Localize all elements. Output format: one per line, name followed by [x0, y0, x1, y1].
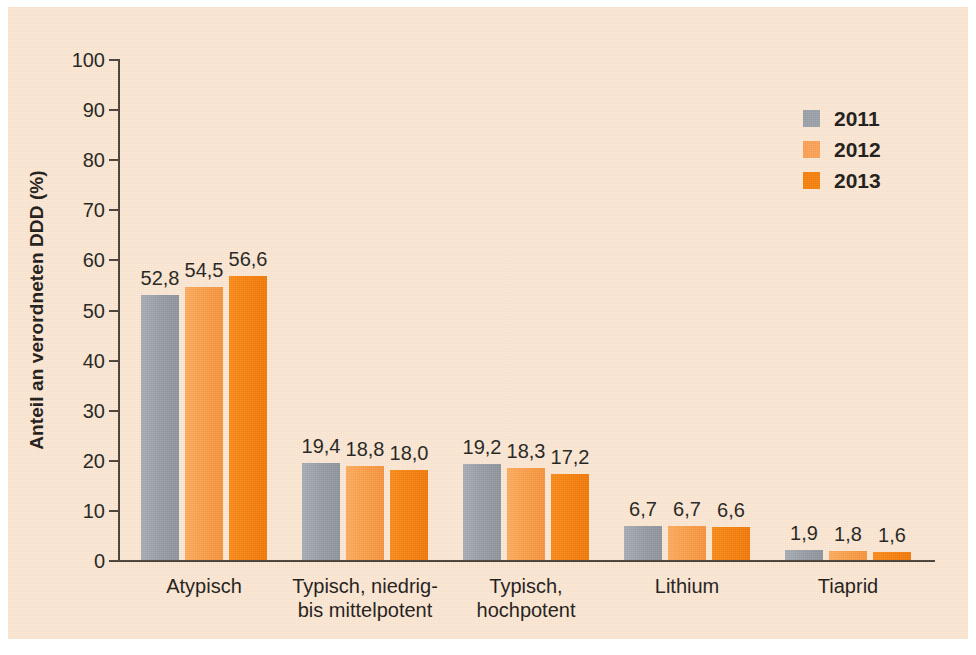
bar-2012-1[interactable] [185, 287, 223, 560]
bar-2011-2[interactable] [302, 463, 340, 560]
legend-item-2013[interactable]: 2013 [803, 165, 881, 196]
y-axis-tick-label: 90 [83, 99, 105, 122]
bar-2012-4[interactable] [668, 526, 706, 560]
y-axis-tick-label: 20 [83, 449, 105, 472]
bar-value-label: 56,6 [229, 248, 268, 271]
bar-2013-1[interactable] [229, 276, 267, 560]
legend-item-label: 2012 [834, 138, 881, 162]
y-axis-tick [109, 159, 118, 161]
x-axis-line [118, 560, 935, 562]
x-axis-category-label: Lithium [655, 574, 719, 598]
x-axis-category-label: Tiaprid [818, 574, 878, 598]
bar-2011-5[interactable] [785, 550, 823, 560]
legend-swatch-icon [803, 172, 820, 189]
y-axis-title-text: Anteil an verordneten DDD (%) [26, 170, 48, 450]
bar-2011-1[interactable] [141, 295, 179, 560]
bar-value-label: 1,6 [878, 524, 906, 547]
y-axis-tick-label: 0 [94, 550, 105, 573]
legend-swatch-icon [803, 141, 820, 158]
y-axis-tick-label: 70 [83, 199, 105, 222]
chart-legend: 201120122013 [803, 103, 881, 196]
bar-2012-2[interactable] [346, 466, 384, 560]
y-axis-line [118, 59, 120, 562]
bar-value-label: 1,9 [790, 522, 818, 545]
bar-2013-2[interactable] [390, 470, 428, 560]
x-axis-category-label: Typisch, niedrig- bis mittelpotent [292, 574, 438, 623]
y-axis-tick [109, 360, 118, 362]
chart-panel: Anteil an verordneten DDD (%) 0102030405… [8, 7, 968, 639]
y-axis-tick-label: 50 [83, 299, 105, 322]
y-axis-tick-label: 10 [83, 499, 105, 522]
chart-figure: Anteil an verordneten DDD (%) 0102030405… [0, 0, 976, 655]
bar-2011-4[interactable] [624, 526, 662, 560]
bar-value-label: 18,3 [507, 440, 546, 463]
y-axis-tick [109, 109, 118, 111]
legend-item-2011[interactable]: 2011 [803, 103, 881, 134]
bar-value-label: 17,2 [551, 446, 590, 469]
y-axis-tick [109, 410, 118, 412]
bar-value-label: 6,7 [629, 498, 657, 521]
x-axis-category-label: Typisch, hochpotent [477, 574, 576, 623]
y-axis-tick-label: 100 [72, 49, 105, 72]
y-axis-tick [109, 510, 118, 512]
y-axis-tick [109, 259, 118, 261]
bar-value-label: 54,5 [185, 259, 224, 282]
bar-value-label: 6,6 [717, 499, 745, 522]
legend-swatch-icon [803, 110, 820, 127]
bar-2013-4[interactable] [712, 527, 750, 560]
bar-value-label: 18,0 [390, 442, 429, 465]
y-axis-tick [109, 59, 118, 61]
bar-2011-3[interactable] [463, 464, 501, 560]
y-axis-tick [109, 310, 118, 312]
bar-2013-3[interactable] [551, 474, 589, 560]
legend-item-label: 2013 [834, 169, 881, 193]
y-axis-tick-label: 60 [83, 249, 105, 272]
bar-value-label: 19,2 [463, 436, 502, 459]
bar-2013-5[interactable] [873, 552, 911, 560]
bar-value-label: 18,8 [346, 438, 385, 461]
y-axis-title: Anteil an verordneten DDD (%) [22, 59, 52, 560]
bar-2012-5[interactable] [829, 551, 867, 560]
bar-value-label: 19,4 [302, 435, 341, 458]
y-axis-tick-label: 80 [83, 149, 105, 172]
y-axis-tick-label: 40 [83, 349, 105, 372]
y-axis-tick [109, 460, 118, 462]
y-axis-tick [109, 209, 118, 211]
legend-item-label: 2011 [834, 107, 880, 131]
bar-value-label: 1,8 [834, 523, 862, 546]
bar-value-label: 6,7 [673, 498, 701, 521]
x-axis-category-label: Atypisch [166, 574, 242, 598]
legend-item-2012[interactable]: 2012 [803, 134, 881, 165]
bar-2012-3[interactable] [507, 468, 545, 560]
y-axis-tick-label: 30 [83, 399, 105, 422]
y-axis-tick [109, 560, 118, 562]
bar-value-label: 52,8 [141, 267, 180, 290]
